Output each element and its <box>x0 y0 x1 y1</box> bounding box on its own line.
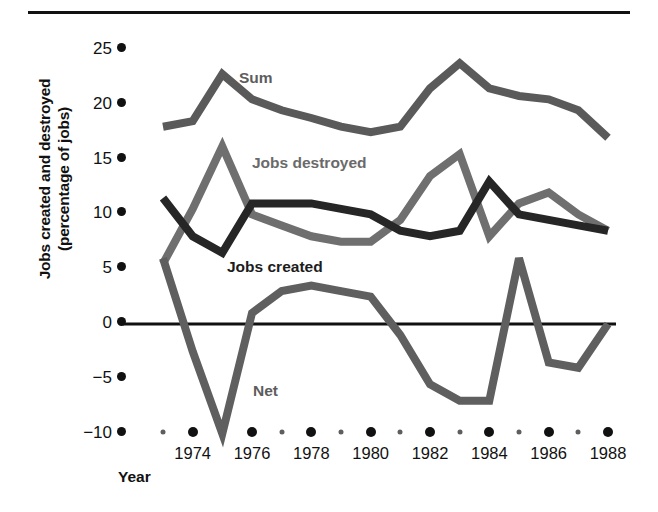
series-label-net: Net <box>253 382 278 400</box>
series-line-net <box>163 258 608 433</box>
series-label-sum: Sum <box>239 69 273 87</box>
chart-figure: Jobs created and destroyed (percentage o… <box>0 0 658 512</box>
plot-area <box>0 0 658 512</box>
series-label-jobs-destroyed: Jobs destroyed <box>252 154 367 172</box>
series-line-sum <box>163 63 608 138</box>
series-label-jobs-created: Jobs created <box>227 258 323 276</box>
